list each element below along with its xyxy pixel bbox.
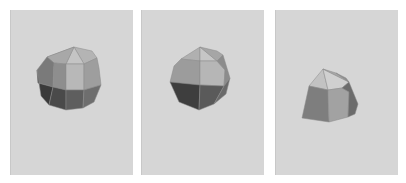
polyhedron-face	[170, 59, 200, 85]
polyhedron-face	[84, 58, 101, 90]
polyhedron-face	[181, 47, 200, 61]
polyhedron-render	[142, 10, 264, 175]
polyhedron-render	[276, 10, 398, 175]
polyhedron-face	[66, 64, 84, 90]
polyhedron-render	[11, 10, 133, 175]
render-panel-2	[141, 10, 264, 175]
polyhedron-face	[328, 88, 349, 122]
polyhedron-face	[53, 63, 66, 90]
polyhedron-face	[302, 86, 329, 122]
polyhedron-face	[66, 90, 84, 110]
polyhedron-face	[37, 57, 54, 87]
render-panel-1	[10, 10, 133, 175]
polyhedron-face	[170, 82, 200, 110]
render-panel-3	[275, 10, 398, 175]
